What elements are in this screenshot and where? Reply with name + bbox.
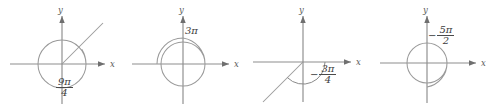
x-axis-label: x <box>234 59 239 69</box>
angle-sign-4: − <box>428 31 437 41</box>
x-axis-arrowhead <box>222 61 229 66</box>
angle-numerator-3: 3π <box>319 64 336 74</box>
angle-label-4: − 5π 2 <box>428 25 454 46</box>
angle-spiral <box>157 38 205 86</box>
x-axis-label: x <box>110 59 115 69</box>
angle-diagram-board: x y 9π 4 x y 3π <box>0 0 496 109</box>
x-axis-arrowhead <box>98 61 105 66</box>
y-axis-arrowhead <box>424 16 429 23</box>
angle-label-2: 3π <box>184 26 198 36</box>
x-axis-label: x <box>356 57 361 67</box>
y-axis-label: y <box>57 5 63 15</box>
y-axis-label: y <box>422 5 428 15</box>
angle-label-1: 9π 4 <box>55 77 73 98</box>
y-axis-arrowhead <box>300 16 305 23</box>
angle-label-3: − 3π 4 <box>310 64 336 85</box>
angle-fraction-1: 9π 4 <box>56 77 73 98</box>
angle-numerator-4: 5π <box>437 25 454 35</box>
angle-denominator-3: 4 <box>319 74 336 85</box>
angle-panel-4: x y − 5π 2 <box>372 0 496 109</box>
angle-numerator-1: 9π <box>56 77 73 87</box>
angle-sign-3: − <box>310 70 319 80</box>
x-axis-arrowhead <box>469 60 476 65</box>
angle-denominator-4: 2 <box>437 35 454 46</box>
x-axis-label: x <box>481 58 486 68</box>
y-axis-arrowhead <box>59 16 64 23</box>
x-axis-arrowhead <box>344 59 351 64</box>
angle-panel-1: x y 9π 4 <box>0 0 124 109</box>
terminal-ray <box>62 23 103 64</box>
y-axis-label: y <box>178 5 184 15</box>
angle-value-2: 3π <box>185 26 198 36</box>
angle-panel-2: x y 3π <box>124 0 248 109</box>
angle-panel-3: x y − 3π 4 <box>248 0 372 109</box>
angle-fraction-3: 3π 4 <box>319 64 336 85</box>
angle-fraction-4: 5π 2 <box>437 25 454 46</box>
y-axis-arrowhead <box>180 16 185 23</box>
y-axis-label: y <box>298 5 304 15</box>
angle-denominator-1: 4 <box>56 87 73 98</box>
terminal-ray <box>263 62 303 102</box>
